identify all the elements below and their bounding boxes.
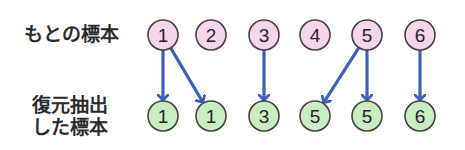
- arrows-layer: [163, 48, 420, 103]
- original-value: 5: [362, 25, 373, 46]
- original-node: 5: [352, 20, 382, 50]
- sampling-arrow: [324, 48, 359, 103]
- resampled-node: 5: [300, 101, 330, 131]
- original-value: 2: [206, 25, 217, 46]
- original-value: 1: [158, 25, 169, 46]
- original-node: 6: [405, 20, 435, 50]
- resampled-node: 3: [249, 101, 279, 131]
- resampled-node: 6: [405, 101, 435, 131]
- sampling-arrow: [171, 48, 203, 102]
- original-node: 2: [196, 20, 226, 50]
- resampled-sample-row: 113556: [148, 101, 435, 131]
- resampled-value: 6: [415, 106, 426, 127]
- resampled-value: 3: [259, 106, 270, 127]
- original-value: 4: [310, 25, 321, 46]
- resampling-diagram: 123456 113556: [0, 0, 465, 150]
- original-node: 3: [249, 20, 279, 50]
- original-node: 1: [148, 20, 178, 50]
- resampled-value: 1: [158, 106, 169, 127]
- original-node: 4: [300, 20, 330, 50]
- original-value: 6: [415, 25, 426, 46]
- resampled-value: 1: [206, 106, 217, 127]
- resampled-node: 1: [196, 101, 226, 131]
- original-value: 3: [259, 25, 270, 46]
- original-sample-row: 123456: [148, 20, 435, 50]
- resampled-value: 5: [310, 106, 321, 127]
- resampled-node: 5: [352, 101, 382, 131]
- resampled-value: 5: [362, 106, 373, 127]
- resampled-node: 1: [148, 101, 178, 131]
